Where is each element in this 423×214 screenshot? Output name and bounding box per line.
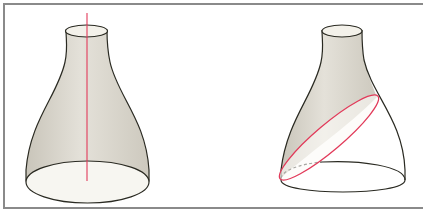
right-flask-base-back	[322, 162, 405, 180]
right-flask	[272, 25, 405, 192]
left-flask	[26, 13, 149, 203]
right-flask-base-front	[281, 180, 405, 192]
flask-figure	[0, 0, 423, 214]
right-flask-rim	[322, 25, 362, 37]
